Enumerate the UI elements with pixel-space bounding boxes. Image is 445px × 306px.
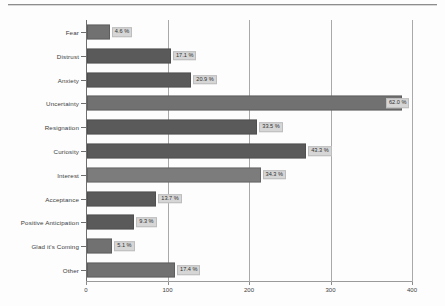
x-axis-tick-label: 400	[407, 287, 417, 293]
x-axis-tick-mark	[86, 282, 87, 285]
category-label: Curiosity	[54, 147, 79, 154]
y-axis-tick	[81, 127, 86, 128]
bar-value-label: 9.3 %	[136, 218, 156, 228]
gridline-400	[412, 20, 413, 282]
y-axis-tick	[81, 56, 86, 57]
bar-value-label: 5.1 %	[114, 241, 134, 251]
bar-row: Fear4.6 %	[86, 20, 412, 44]
bar-value-label: 13.7 %	[158, 194, 181, 204]
y-axis-tick	[81, 103, 86, 104]
bar[interactable]	[87, 48, 171, 63]
bar[interactable]	[87, 72, 191, 87]
y-axis-tick	[81, 270, 86, 271]
x-axis-tick-label: 200	[244, 287, 254, 293]
bar-value-label: 43.3 %	[308, 146, 331, 156]
bar[interactable]	[87, 239, 112, 254]
category-label: Anxiety	[58, 76, 79, 83]
bar-row: Interest34.3 %	[86, 163, 412, 187]
bar-row: Distrust17.1 %	[86, 44, 412, 68]
category-label: Uncertainty	[46, 100, 79, 107]
x-axis-tick-mark	[249, 282, 250, 285]
bar-value-label: 4.6 %	[112, 27, 132, 37]
plot-area: Fear4.6 %Distrust17.1 %Anxiety20.9 %Unce…	[86, 20, 412, 282]
category-label: Other	[63, 267, 79, 274]
category-label: Distrust	[57, 52, 79, 59]
bar-row: Uncertainty62.0 %	[86, 91, 412, 115]
category-label: Positive Anticipation	[21, 219, 79, 226]
bar[interactable]	[87, 263, 175, 278]
y-axis-tick	[81, 175, 86, 176]
bar-value-label: 17.1 %	[173, 51, 196, 61]
x-axis-tick-label: 300	[325, 287, 335, 293]
bar-row: Anxiety20.9 %	[86, 68, 412, 92]
top-divider	[8, 4, 437, 5]
bar-value-label: 20.9 %	[193, 75, 216, 85]
bar-value-label: 62.0 %	[386, 99, 409, 109]
bar-value-label: 17.4 %	[177, 265, 200, 275]
bar-row: Acceptance13.7 %	[86, 187, 412, 211]
bar-row: Positive Anticipation9.3 %	[86, 211, 412, 235]
bar-row: Glad it's Coming5.1 %	[86, 234, 412, 258]
category-label: Interest	[57, 171, 79, 178]
bar-value-label: 33.5 %	[259, 122, 282, 132]
category-label: Resignation	[45, 124, 79, 131]
bar[interactable]	[87, 191, 156, 206]
y-axis-tick	[81, 222, 86, 223]
x-axis-ticks: 0100200300400	[86, 282, 412, 302]
y-axis-tick	[81, 32, 86, 33]
x-axis-tick-mark	[412, 282, 413, 285]
chart-page: Fear4.6 %Distrust17.1 %Anxiety20.9 %Unce…	[0, 0, 445, 306]
bar-row: Other17.4 %	[86, 258, 412, 282]
x-axis-tick-mark	[331, 282, 332, 285]
category-label: Acceptance	[45, 195, 79, 202]
x-axis-tick-mark	[168, 282, 169, 285]
bar[interactable]	[87, 24, 110, 39]
y-axis-tick	[81, 151, 86, 152]
bar[interactable]	[87, 215, 134, 230]
y-axis-tick	[81, 199, 86, 200]
category-label: Fear	[66, 28, 79, 35]
x-axis-tick-label: 0	[84, 287, 87, 293]
bar-value-label: 34.3 %	[263, 170, 286, 180]
bar[interactable]	[87, 143, 306, 158]
x-axis-tick-label: 100	[162, 287, 172, 293]
y-axis-tick	[81, 246, 86, 247]
bar[interactable]	[87, 120, 257, 135]
category-label: Glad it's Coming	[31, 243, 79, 250]
bar[interactable]	[87, 167, 261, 182]
bar-row: Curiosity43.3 %	[86, 139, 412, 163]
y-axis-tick	[81, 80, 86, 81]
bar-row: Resignation33.5 %	[86, 115, 412, 139]
bar[interactable]	[87, 96, 402, 111]
